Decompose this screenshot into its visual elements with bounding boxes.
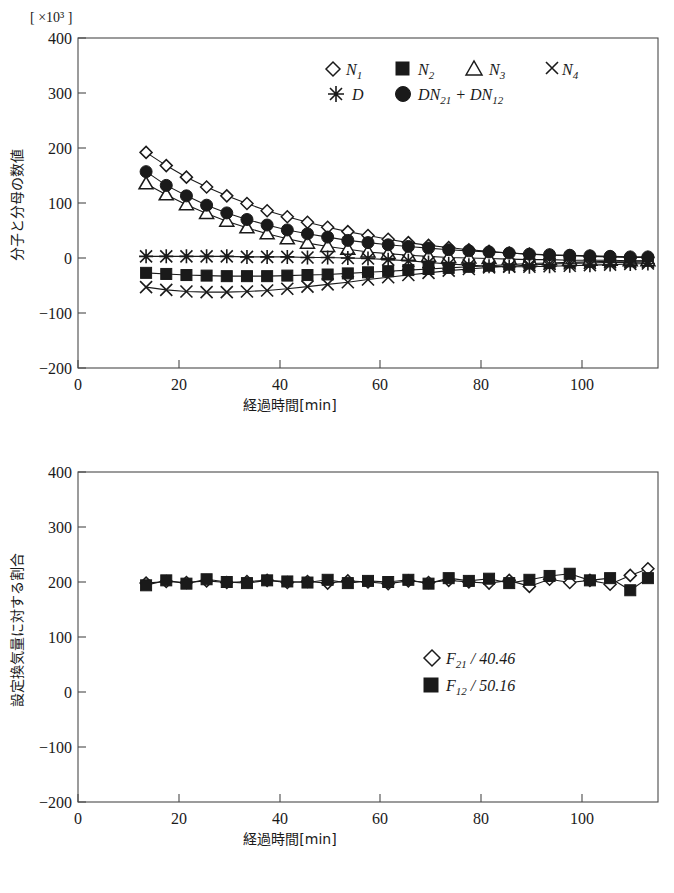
marker-asterisk (260, 250, 274, 264)
legend-bottom: F21 / 40.46 F12 / 50.16 (424, 650, 515, 697)
marker-square-filled (262, 271, 273, 282)
marker-square-filled (282, 576, 293, 587)
marker-square-filled (201, 574, 212, 585)
chart-svg-top: [ ×10³ ] 分子と分母の数値 400 300 200 100 0 −100 (0, 0, 674, 440)
legend-item-n4: N4 (546, 61, 579, 81)
marker-diamond-open (140, 146, 152, 158)
unit-label-top: [ ×10³ ] (30, 10, 72, 25)
series-n3 (139, 177, 655, 266)
cross-x-icon (546, 62, 558, 74)
marker-square-filled (383, 577, 394, 588)
y-tick-label-neg200-top: −200 (39, 360, 72, 377)
legend-label-n4: N4 (561, 61, 579, 81)
x-tick-label-20-top: 20 (171, 376, 187, 393)
legend-label-f21: F21 / 40.46 (445, 650, 515, 670)
marker-diamond-open (301, 216, 313, 228)
marker-diamond-open (221, 190, 233, 202)
series-line (146, 152, 648, 257)
marker-square-filled (383, 266, 394, 277)
marker-square-filled (524, 574, 535, 585)
marker-asterisk (401, 254, 415, 268)
marker-square-filled (423, 578, 434, 589)
y-tick-label-100-bottom: 100 (48, 629, 72, 646)
x-axis-title-bottom: 経過時間[min] (243, 831, 336, 847)
marker-circle-filled (463, 245, 475, 257)
marker-diamond-open (241, 198, 253, 210)
marker-square-filled (642, 573, 653, 584)
marker-diamond-open (160, 160, 172, 172)
marker-square-filled (484, 573, 495, 584)
marker-asterisk (220, 249, 234, 263)
marker-square-filled (322, 269, 333, 280)
marker-asterisk (300, 250, 314, 264)
marker-circle-filled (443, 244, 455, 256)
plot-frame-top (78, 38, 658, 368)
marker-square-filled (241, 578, 252, 589)
y-axis-ticks-bottom: 400 300 200 100 0 −100 −200 (39, 464, 86, 811)
y-tick-label-200-top: 200 (48, 140, 72, 157)
marker-square-filled (564, 568, 575, 579)
marker-asterisk (240, 250, 254, 264)
marker-asterisk (543, 259, 557, 273)
circle-filled-icon (396, 87, 411, 102)
marker-circle-filled (221, 207, 233, 219)
chart-panel-bottom: 設定換気量に対する割合 400 300 200 100 0 −100 −200 (0, 450, 674, 893)
figure-container: [ ×10³ ] 分子と分母の数値 400 300 200 100 0 −100 (0, 0, 674, 893)
marker-circle-filled (423, 242, 435, 254)
legend-item-dn: DN21 + DN12 (396, 86, 504, 106)
marker-square-filled (463, 575, 474, 586)
legend-top: N1 N2 N3 N4 D (326, 61, 579, 106)
marker-cross-x (140, 281, 152, 293)
chart-panel-top: [ ×10³ ] 分子と分母の数値 400 300 200 100 0 −100 (0, 0, 674, 440)
marker-square-filled (282, 270, 293, 281)
marker-circle-filled (201, 199, 213, 211)
y-tick-label-400-bottom: 400 (48, 464, 72, 481)
legend-item-d: D (328, 86, 364, 103)
chart-svg-bottom: 設定換気量に対する割合 400 300 200 100 0 −100 −200 (0, 450, 674, 893)
series-dn21-dn12 (140, 166, 654, 263)
x-tick-label-60-bottom: 60 (372, 810, 388, 827)
marker-square-filled (403, 574, 414, 585)
y-tick-label-100-top: 100 (48, 195, 72, 212)
marker-asterisk (321, 250, 335, 264)
marker-circle-filled (342, 234, 354, 246)
x-tick-label-60-top: 60 (372, 376, 388, 393)
marker-circle-filled (624, 251, 636, 263)
plot-frame-bottom (78, 472, 658, 802)
legend-label-n1: N1 (345, 61, 362, 81)
marker-square-filled (363, 575, 374, 586)
y-tick-label-neg200-bottom: −200 (39, 794, 72, 811)
asterisk-icon (328, 86, 344, 102)
plot-series-group-bottom (140, 563, 654, 596)
x-tick-label-20-bottom: 20 (171, 810, 187, 827)
x-tick-label-80-top: 80 (473, 376, 489, 393)
marker-diamond-open (201, 181, 213, 193)
y-tick-label-0-top: 0 (64, 250, 72, 267)
series-d (139, 249, 655, 273)
marker-square-filled (221, 577, 232, 588)
marker-circle-filled (140, 166, 152, 178)
marker-square-filled (302, 270, 313, 281)
marker-asterisk (280, 250, 294, 264)
marker-square-filled (221, 271, 232, 282)
diamond-open-icon (326, 62, 340, 76)
marker-square-filled (302, 577, 313, 588)
y-axis-title-bottom: 設定換気量に対する割合 (9, 553, 25, 707)
legend-label-n2: N2 (417, 61, 435, 81)
y-axis-ticks-top: 400 300 200 100 0 −100 −200 (39, 30, 86, 377)
marker-square-filled (342, 578, 353, 589)
marker-diamond-open (281, 211, 293, 223)
marker-circle-filled (301, 228, 313, 240)
marker-circle-filled (523, 248, 535, 260)
marker-square-filled (141, 580, 152, 591)
marker-circle-filled (261, 219, 273, 231)
marker-asterisk (159, 249, 173, 263)
series-f21-40-46 (140, 563, 654, 593)
triangle-open-icon (466, 61, 482, 75)
x-tick-label-100-bottom: 100 (570, 810, 594, 827)
marker-circle-filled (483, 246, 495, 258)
legend-label-n3: N3 (488, 61, 506, 81)
y-tick-label-400-top: 400 (48, 30, 72, 47)
marker-circle-filled (180, 190, 192, 202)
legend-item-n3: N3 (466, 61, 506, 81)
